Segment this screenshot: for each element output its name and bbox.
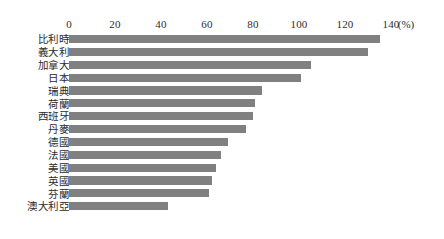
bar-8: [69, 125, 246, 133]
bar-6: [69, 99, 255, 107]
category-label-14: 澳大利亞: [27, 201, 69, 212]
x-axis-tick-100: 100: [290, 17, 307, 31]
bar-10: [69, 151, 221, 159]
bar-3: [69, 61, 311, 69]
bar-13: [69, 189, 209, 197]
category-label-4: 日本: [48, 72, 69, 83]
category-label-12: 英國: [48, 175, 69, 186]
bar-row: 瑞典: [0, 84, 444, 97]
category-label-1: 比利時: [38, 34, 70, 45]
bar-row: 德國: [0, 136, 444, 149]
x-axis-tick-60: 60: [201, 17, 212, 31]
bar-row: 荷蘭: [0, 97, 444, 110]
bar-row: 比利時: [0, 33, 444, 46]
bar-row: 加拿大: [0, 59, 444, 72]
category-label-2: 義大利: [38, 47, 70, 58]
bar-row: 澳大利亞: [0, 200, 444, 213]
bar-14: [69, 202, 168, 210]
category-label-5: 瑞典: [48, 85, 69, 96]
bar-chart: 020406080100120140(%) 比利時義大利加拿大日本瑞典荷蘭西班牙…: [0, 0, 444, 239]
category-label-9: 德國: [48, 137, 69, 148]
x-axis-tick-20: 20: [109, 17, 120, 31]
bar-row: 日本: [0, 72, 444, 85]
category-label-3: 加拿大: [38, 60, 70, 71]
bar-row: 芬蘭: [0, 187, 444, 200]
bar-row: 英國: [0, 174, 444, 187]
bar-1: [69, 35, 380, 43]
x-axis-tick-40: 40: [155, 17, 166, 31]
category-label-6: 荷蘭: [48, 98, 69, 109]
x-axis-tick-120: 120: [336, 17, 353, 31]
bar-row: 義大利: [0, 46, 444, 59]
bar-4: [69, 74, 301, 82]
bar-2: [69, 48, 368, 56]
category-label-7: 西班牙: [38, 111, 70, 122]
x-axis-tick-labels: 020406080100120140(%): [0, 17, 444, 33]
bar-5: [69, 86, 262, 94]
bar-11: [69, 164, 216, 172]
plot-area: 比利時義大利加拿大日本瑞典荷蘭西班牙丹麥德國法國美國英國芬蘭澳大利亞: [0, 33, 444, 225]
category-label-10: 法國: [48, 150, 69, 161]
bar-7: [69, 112, 253, 120]
bar-9: [69, 138, 228, 146]
bar-row: 西班牙: [0, 110, 444, 123]
x-axis-tick-0: 0: [66, 17, 72, 31]
category-label-8: 丹麥: [48, 124, 69, 135]
x-axis-tick-80: 80: [247, 17, 258, 31]
bar-12: [69, 176, 212, 184]
bar-row: 美國: [0, 162, 444, 175]
bar-row: 法國: [0, 149, 444, 162]
category-label-13: 芬蘭: [48, 188, 69, 199]
bar-row: 丹麥: [0, 123, 444, 136]
category-label-11: 美國: [48, 162, 69, 173]
x-axis-unit-label: (%): [398, 17, 415, 31]
